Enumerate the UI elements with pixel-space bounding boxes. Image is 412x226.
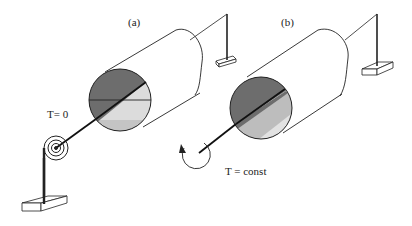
panel-a-label: (a) (128, 16, 141, 29)
back-stand-b (345, 14, 393, 75)
back-stand-a (190, 14, 236, 67)
front-disk-a (85, 65, 155, 140)
wire-b (199, 124, 236, 153)
panel-b: (b) T = const (179, 14, 393, 177)
panel-a: (a) T= 0 (22, 14, 236, 211)
panel-b-label: (b) (281, 16, 294, 29)
wire-a (56, 119, 96, 148)
front-stand-a (22, 148, 67, 211)
torque-label-b: T = const (225, 165, 266, 177)
spiral-spring-icon (44, 136, 68, 160)
figure: (a) T= 0 (0, 0, 412, 226)
front-disk-b (226, 73, 296, 143)
torque-label-a: T= 0 (47, 108, 69, 120)
